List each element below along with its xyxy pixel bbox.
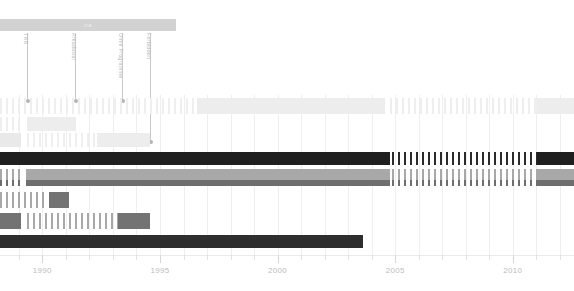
axis-tick-label: 2005 — [386, 266, 405, 275]
annotation-label: TRR — [23, 33, 29, 45]
timeline-bar — [0, 117, 20, 131]
axis-tick-minor — [325, 255, 326, 260]
timeline-bar — [197, 98, 385, 114]
axis-tick-major — [513, 255, 514, 263]
axis-tick-minor — [348, 255, 349, 260]
axis-tick-major — [160, 255, 161, 263]
axis-tick-major — [395, 255, 396, 263]
row-3 — [0, 133, 574, 147]
axis-tick-minor — [19, 255, 20, 260]
timeline-bar — [537, 98, 574, 114]
axis-tick-minor — [466, 255, 467, 260]
axis-tick-label: 2000 — [268, 266, 287, 275]
axis-baseline — [0, 255, 574, 256]
axis-tick-minor — [254, 255, 255, 260]
timeline-bar — [0, 192, 47, 208]
axis-tick-minor — [536, 255, 537, 260]
timeline-bar — [0, 133, 21, 147]
timeline-bar — [392, 152, 537, 165]
timeline-bar — [0, 98, 197, 114]
annotation-label: Forbidden — [146, 33, 152, 59]
axis-tick-label: 1995 — [151, 266, 170, 275]
axis-tick-label: 2010 — [503, 266, 522, 275]
timeline-chart: ira TRRArkadaslarOmni ProgrammeForbidden… — [0, 0, 574, 291]
header-band: ira — [0, 19, 176, 31]
axis-tick-minor — [419, 255, 420, 260]
row-6 — [0, 180, 574, 186]
timeline-bar — [392, 180, 537, 186]
timeline-bar — [537, 180, 574, 186]
timeline-bar — [390, 98, 537, 114]
x-axis: 19901995200020052010 — [0, 255, 574, 291]
axis-tick-label: 1990 — [33, 266, 52, 275]
axis-tick-minor — [136, 255, 137, 260]
timeline-bar — [27, 117, 76, 131]
axis-tick-major — [42, 255, 43, 263]
axis-tick-minor — [66, 255, 67, 260]
timeline-bar — [0, 180, 21, 186]
timeline-bar — [26, 169, 390, 180]
timeline-bar — [27, 213, 118, 229]
timeline-bar — [26, 180, 390, 186]
row-1 — [0, 98, 574, 114]
axis-tick-minor — [184, 255, 185, 260]
timeline-bar — [0, 169, 21, 180]
timeline-bar — [49, 192, 69, 208]
axis-tick-major — [278, 255, 279, 263]
row-8 — [0, 213, 574, 229]
timeline-bar — [537, 169, 574, 180]
header-band-label: ira — [0, 20, 176, 30]
axis-tick-minor — [560, 255, 561, 260]
axis-tick-minor — [489, 255, 490, 260]
axis-tick-minor — [89, 255, 90, 260]
row-7 — [0, 192, 574, 208]
timeline-bar — [537, 152, 574, 165]
timeline-bar — [0, 235, 363, 248]
row-4 — [0, 152, 574, 165]
timeline-bar — [97, 133, 150, 147]
annotation-label: Omni Programme — [118, 33, 124, 78]
timeline-bar — [392, 169, 537, 180]
timeline-bar — [0, 152, 390, 165]
timeline-bar — [27, 133, 97, 147]
axis-tick-minor — [207, 255, 208, 260]
axis-tick-minor — [113, 255, 114, 260]
row-5 — [0, 169, 574, 180]
plot-area — [0, 95, 574, 255]
axis-tick-minor — [231, 255, 232, 260]
row-2 — [0, 117, 574, 131]
row-9 — [0, 235, 574, 248]
axis-tick-minor — [372, 255, 373, 260]
axis-tick-minor — [442, 255, 443, 260]
timeline-bar — [0, 213, 21, 229]
timeline-bar — [118, 213, 150, 229]
axis-tick-minor — [301, 255, 302, 260]
annotation-label: Arkadaslar — [71, 33, 77, 61]
